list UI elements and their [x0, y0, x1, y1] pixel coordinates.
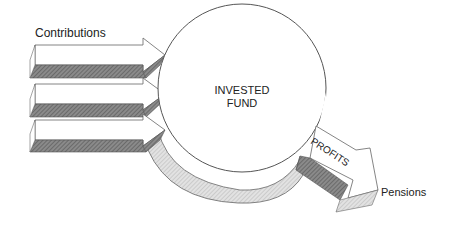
contributions-label: Contributions	[35, 26, 106, 40]
pension-fund-diagram: Contributions INVESTED FUND PROFITS Pens…	[0, 0, 453, 227]
contribution-arrow-3	[30, 114, 165, 152]
contribution-arrow-1	[30, 38, 165, 78]
invested-fund-label-line2: FUND	[227, 97, 258, 109]
pensions-label: Pensions	[381, 186, 427, 198]
invested-fund-label-line1: INVESTED	[214, 84, 269, 96]
contribution-arrow-2	[30, 78, 165, 117]
